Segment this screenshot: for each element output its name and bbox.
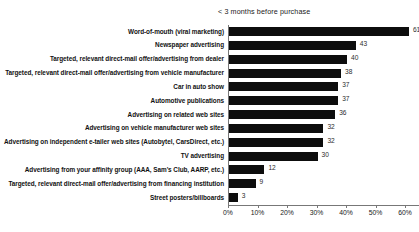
bar-value-label: 37: [342, 81, 349, 88]
category-label: Car in auto show: [2, 83, 224, 90]
x-tick-mark: [317, 205, 318, 208]
bar: [229, 41, 356, 50]
bar-value-label: 30: [322, 151, 329, 158]
bar-row: 12: [228, 163, 405, 178]
bar: [229, 27, 409, 36]
bar-row: 43: [228, 39, 405, 54]
category-label: Street posters/billboards: [2, 194, 224, 201]
bar: [229, 138, 323, 147]
bar: [229, 179, 256, 188]
category-label: Targeted, relevant direct-mail offer/adv…: [2, 55, 224, 62]
bar: [229, 82, 338, 91]
category-label: Advertising from your affinity group (AA…: [2, 166, 224, 173]
category-label: Advertising on vehicle manufacturer web …: [2, 124, 224, 131]
bar-value-label: 12: [268, 164, 275, 171]
x-tick-label: 0%: [223, 209, 233, 216]
x-axis-tick-labels: 0%10%20%30%40%50%60%: [0, 209, 419, 221]
bar-row: 61: [228, 25, 405, 40]
x-tick-label: 40%: [339, 209, 353, 216]
x-tick-label: 60%: [398, 209, 412, 216]
bar-row: 30: [228, 150, 405, 165]
x-tick-label: 30%: [310, 209, 324, 216]
bar: [229, 55, 347, 64]
bar-row: 3: [228, 191, 405, 206]
x-tick-mark: [376, 205, 377, 208]
bar: [229, 110, 335, 119]
category-label: Targeted, relevant direct-mail offer/adv…: [2, 69, 224, 76]
bar-value-label: 9: [260, 178, 264, 185]
bar-row: 37: [228, 80, 405, 95]
bar-row: 37: [228, 94, 405, 109]
category-label: Targeted, relevant direct-mail offer/adv…: [2, 180, 224, 187]
category-label: Advertising on independent e-tailer web …: [2, 138, 224, 145]
chart-page: < 3 months before purchase Word-of-mouth…: [0, 0, 419, 232]
category-label: Advertising on related web sites: [2, 111, 224, 118]
bar-row: 32: [228, 136, 405, 151]
bar-row: 9: [228, 177, 405, 192]
chart-title: < 3 months before purchase: [218, 7, 310, 16]
x-tick-mark: [346, 205, 347, 208]
bar-row: 40: [228, 53, 405, 68]
bar-value-label: 32: [327, 137, 334, 144]
bar: [229, 96, 338, 105]
category-label: Word-of-mouth (viral marketing): [2, 28, 224, 35]
bar-row: 32: [228, 122, 405, 137]
x-tick-mark: [287, 205, 288, 208]
bar-value-label: 3: [242, 192, 246, 199]
bar-row: 36: [228, 108, 405, 123]
bar: [229, 69, 341, 78]
category-label: Newspaper advertising: [2, 41, 224, 48]
bar: [229, 152, 318, 161]
bar-row: 38: [228, 67, 405, 82]
category-label: Automotive publications: [2, 97, 224, 104]
category-axis-labels: Word-of-mouth (viral marketing)Newspaper…: [0, 25, 224, 205]
bar: [229, 193, 238, 202]
bar-value-label: 61: [413, 26, 419, 33]
bar-value-label: 38: [345, 68, 352, 75]
x-tick-label: 50%: [369, 209, 383, 216]
bar-value-label: 32: [327, 123, 334, 130]
x-tick-mark: [228, 205, 229, 208]
bar-value-label: 43: [360, 40, 367, 47]
x-tick-mark: [405, 205, 406, 208]
x-tick-label: 10%: [251, 209, 265, 216]
x-tick-label: 20%: [280, 209, 294, 216]
plot-area: 614340383737363232301293: [228, 25, 405, 205]
bar: [229, 165, 264, 174]
bar-value-label: 36: [339, 109, 346, 116]
bar-value-label: 37: [342, 95, 349, 102]
x-tick-mark: [258, 205, 259, 208]
category-label: TV advertising: [2, 152, 224, 159]
bar-value-label: 40: [351, 54, 358, 61]
bar: [229, 124, 323, 133]
